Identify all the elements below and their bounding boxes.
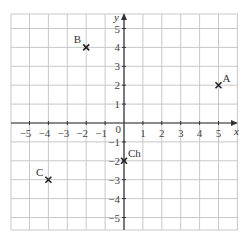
x-tick-label: −4 (39, 127, 51, 139)
x-tick-label: 2 (159, 127, 165, 139)
y-tick-label: −1 (108, 136, 120, 148)
point-label: B (74, 33, 81, 45)
point-label: Ch (128, 147, 141, 159)
x-tick-label: 5 (216, 127, 222, 139)
y-tick-label: 1 (115, 98, 121, 110)
y-tick-label: 4 (115, 41, 121, 53)
y-tick-label: −4 (108, 193, 120, 205)
point-label: C (36, 166, 43, 178)
y-tick-label: 5 (115, 23, 121, 35)
x-tick-label: −1 (95, 127, 107, 139)
y-tick-label: −2 (108, 155, 120, 167)
coordinate-grid: xy −5−4−3−2−11234554321−1−2−3−4−50 ABCCh (0, 0, 245, 243)
x-tick-label: −5 (20, 127, 32, 139)
x-tick-label: −3 (57, 127, 69, 139)
y-tick-label: −5 (108, 212, 120, 224)
y-tick-label: −3 (108, 174, 120, 186)
x-tick-label: 1 (140, 127, 146, 139)
origin-label: 0 (116, 123, 122, 135)
axes: xy (11, 11, 239, 230)
y-tick-label: 2 (115, 79, 121, 91)
y-axis-label: y (113, 11, 119, 23)
y-tick-label: 3 (115, 60, 121, 72)
point-label: A (223, 72, 231, 84)
point-a: A (216, 72, 231, 88)
x-tick-label: 4 (197, 127, 203, 139)
x-axis-label: x (233, 125, 239, 137)
x-tick-label: −2 (76, 127, 88, 139)
x-tick-label: 3 (178, 127, 184, 139)
